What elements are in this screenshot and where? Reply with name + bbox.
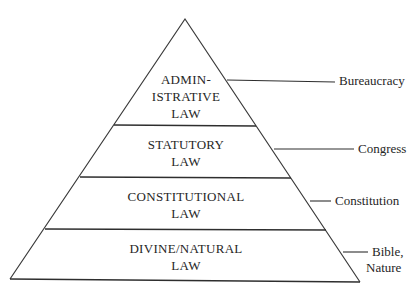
connector-line	[227, 80, 335, 82]
tier-label-line: LAW	[171, 206, 201, 221]
source-constitution: Constitution	[310, 193, 400, 208]
source-bureaucracy: Bureaucracy	[227, 73, 405, 88]
tier-administrative-law: ADMIN- ISTRATIVE LAW	[152, 72, 220, 121]
tier-statutory-law: STATUTORY LAW	[148, 137, 225, 169]
source-label: Nature	[366, 260, 402, 275]
tier-label-line: DIVINE/NATURAL	[129, 241, 242, 256]
divider-statutory-constitutional	[80, 177, 291, 178]
source-label: Congress	[358, 141, 406, 156]
source-congress: Congress	[274, 141, 406, 156]
tier-label-line: LAW	[171, 258, 201, 273]
tier-label-line: ISTRATIVE	[152, 89, 220, 104]
tier-label-line: LAW	[171, 154, 201, 169]
tier-divine-natural-law: DIVINE/NATURAL LAW	[129, 241, 242, 273]
tier-label-line: LAW	[171, 106, 201, 121]
tier-constitutional-law: CONSTITUTIONAL LAW	[128, 189, 245, 221]
divider-constitutional-divine	[45, 229, 326, 230]
tier-label-line: ADMIN-	[161, 72, 211, 87]
source-label: Bureaucracy	[339, 73, 405, 88]
source-label: Constitution	[335, 193, 400, 208]
divider-admin-statutory	[114, 125, 256, 126]
source-label: Bible,	[372, 244, 403, 259]
tier-label-line: STATUTORY	[148, 137, 225, 152]
tier-label-line: CONSTITUTIONAL	[128, 189, 245, 204]
pyramid-base	[10, 279, 360, 282]
law-pyramid-diagram: ADMIN- ISTRATIVE LAW STATUTORY LAW CONST…	[0, 0, 415, 290]
